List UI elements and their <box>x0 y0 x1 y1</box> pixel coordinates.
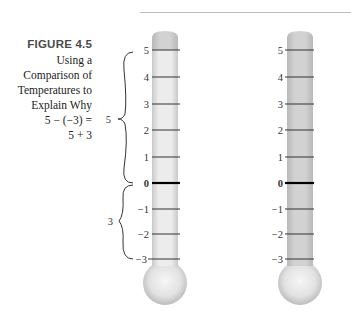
tube <box>287 31 313 266</box>
bulb <box>143 261 187 305</box>
tick-label: 2 <box>144 125 149 136</box>
brace-3 <box>119 185 133 259</box>
tick-label: 1 <box>278 152 283 163</box>
brace-label: 3 <box>108 216 113 227</box>
tick-label: 2 <box>278 125 283 136</box>
right-thermometer: 5 4 3 2 1 0 −1 −2 −3 <box>272 31 322 305</box>
tick-label: 0 <box>278 178 283 189</box>
tick-label: −3 <box>136 254 147 265</box>
tick-label: −1 <box>272 204 283 215</box>
tick-label: −3 <box>272 254 283 265</box>
tick-label: 4 <box>144 72 150 83</box>
tick-label: 5 <box>144 45 149 56</box>
tick-label: −1 <box>138 204 149 215</box>
tick-label: 1 <box>144 152 149 163</box>
left-thermometer: 5 4 3 2 1 0 −1 −2 −3 5 3 <box>106 31 187 305</box>
tick-label: −2 <box>138 229 149 240</box>
thermometer-diagram: 5 4 3 2 1 0 −1 −2 −3 5 3 5 4 3 <box>0 0 351 310</box>
tick-label: 0 <box>144 178 149 189</box>
tube-cap <box>152 31 178 50</box>
tick-label: −2 <box>272 229 283 240</box>
tick-label: 4 <box>278 72 284 83</box>
tick-label: 5 <box>278 45 283 56</box>
brace-label: 5 <box>106 114 111 125</box>
bulb <box>278 261 322 305</box>
tick-label: 3 <box>144 99 149 110</box>
tick-label: 3 <box>278 99 283 110</box>
brace-5 <box>118 52 133 183</box>
